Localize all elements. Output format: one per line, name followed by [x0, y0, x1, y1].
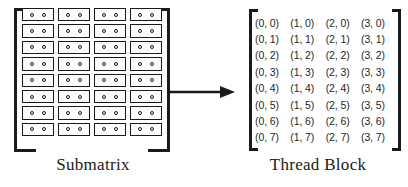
- submatrix-cell: [94, 106, 126, 119]
- thread-coordinate: (2, 2): [326, 49, 360, 61]
- submatrix-cell: [94, 123, 126, 136]
- submatrix-cell: [22, 24, 54, 37]
- thread-block-row: (0, 6)(1, 6)(2, 6)(3, 6): [255, 114, 395, 129]
- thread-coordinate: (2, 1): [326, 33, 360, 45]
- thread-coordinate: (1, 5): [290, 99, 324, 111]
- thread-coordinate: (3, 3): [361, 66, 395, 78]
- cell-dot-icon: [66, 111, 70, 115]
- cell-dot-icon: [42, 13, 46, 17]
- cell-dot-icon: [66, 13, 70, 17]
- submatrix-cell: [94, 57, 126, 70]
- cell-dot-icon: [42, 45, 46, 49]
- cell-dot-icon: [138, 95, 142, 99]
- submatrix-caption: Submatrix: [0, 155, 186, 175]
- arrow-right-icon: [168, 84, 236, 100]
- thread-block-row: (0, 1)(1, 1)(2, 1)(3, 1): [255, 31, 395, 46]
- submatrix-cell: [22, 74, 54, 87]
- thread-block-caption: Thread Block: [228, 155, 408, 175]
- submatrix-cell: [58, 90, 90, 103]
- thread-coordinate: (3, 5): [361, 99, 395, 111]
- cell-dot-icon: [30, 62, 34, 66]
- cell-dot-icon: [66, 29, 70, 33]
- thread-coordinate: (1, 1): [290, 33, 324, 45]
- cell-dot-icon: [42, 29, 46, 33]
- cell-dot-icon: [78, 111, 82, 115]
- thread-coordinate: (0, 4): [255, 82, 289, 94]
- submatrix-cell: [22, 57, 54, 70]
- cell-dot-icon: [42, 62, 46, 66]
- cell-dot-icon: [42, 78, 46, 82]
- cell-dot-icon: [30, 78, 34, 82]
- thread-coordinate: (0, 2): [255, 49, 289, 61]
- cell-dot-icon: [78, 95, 82, 99]
- submatrix-cell: [58, 106, 90, 119]
- submatrix-cell: [22, 106, 54, 119]
- cell-dot-icon: [78, 127, 82, 131]
- cell-dot-icon: [114, 95, 118, 99]
- submatrix-bracket-right-spine: [167, 8, 170, 152]
- thread-coordinate: (1, 3): [290, 66, 324, 78]
- thread-block-row: (0, 2)(1, 2)(2, 2)(3, 2): [255, 48, 395, 63]
- thread-coordinate: (1, 4): [290, 82, 324, 94]
- thread-coordinate: (1, 6): [290, 115, 324, 127]
- cell-dot-icon: [66, 78, 70, 82]
- thread-coordinate: (1, 2): [290, 49, 324, 61]
- cell-dot-icon: [138, 13, 142, 17]
- thread-coordinate: (3, 7): [361, 131, 395, 143]
- submatrix-cell: [22, 8, 54, 21]
- thread-coordinate: (3, 1): [361, 33, 395, 45]
- thread-coordinate: (3, 2): [361, 49, 395, 61]
- thread-coordinate: (0, 6): [255, 115, 289, 127]
- thread-coordinate: (2, 3): [326, 66, 360, 78]
- submatrix-cell: [22, 90, 54, 103]
- thread-block-row: (0, 0)(1, 0)(2, 0)(3, 0): [255, 15, 395, 30]
- thread-coordinate: (2, 4): [326, 82, 360, 94]
- cell-dot-icon: [66, 62, 70, 66]
- cell-dot-icon: [42, 95, 46, 99]
- cell-dot-icon: [138, 78, 142, 82]
- cell-dot-icon: [138, 62, 142, 66]
- thread-coordinate: (0, 3): [255, 66, 289, 78]
- cell-dot-icon: [138, 45, 142, 49]
- cell-dot-icon: [138, 111, 142, 115]
- submatrix-cell: [94, 41, 126, 54]
- submatrix-cell: [130, 106, 162, 119]
- diagram-canvas: Submatrix (0, 0)(1, 0)(2, 0)(3, 0)(0, 1)…: [0, 0, 408, 187]
- submatrix-cell: [58, 74, 90, 87]
- cell-dot-icon: [102, 127, 106, 131]
- submatrix-cell: [130, 123, 162, 136]
- submatrix-cell: [130, 74, 162, 87]
- submatrix-bracket-left-spine: [14, 8, 17, 152]
- cell-dot-icon: [150, 13, 154, 17]
- cell-dot-icon: [78, 13, 82, 17]
- submatrix-cell: [130, 24, 162, 37]
- cell-dot-icon: [102, 45, 106, 49]
- cell-dot-icon: [150, 62, 154, 66]
- thread-block-bracket: (0, 0)(1, 0)(2, 0)(3, 0)(0, 1)(1, 1)(2, …: [249, 9, 401, 151]
- cell-dot-icon: [150, 95, 154, 99]
- cell-dot-icon: [114, 111, 118, 115]
- cell-dot-icon: [66, 127, 70, 131]
- submatrix-cell: [58, 24, 90, 37]
- submatrix-cell: [58, 57, 90, 70]
- cell-dot-icon: [78, 78, 82, 82]
- submatrix-cell: [58, 123, 90, 136]
- thread-block-row: (0, 7)(1, 7)(2, 7)(3, 7): [255, 130, 395, 145]
- thread-coordinate: (2, 6): [326, 115, 360, 127]
- cell-dot-icon: [114, 13, 118, 17]
- cell-dot-icon: [78, 45, 82, 49]
- cell-dot-icon: [102, 78, 106, 82]
- cell-dot-icon: [114, 127, 118, 131]
- cell-dot-icon: [138, 127, 142, 131]
- cell-dot-icon: [150, 78, 154, 82]
- thread-coordinate: (2, 0): [326, 17, 360, 29]
- submatrix-grid: [22, 8, 162, 136]
- cell-dot-icon: [114, 78, 118, 82]
- cell-dot-icon: [102, 95, 106, 99]
- submatrix-bracket-corner-bottom-left: [14, 138, 36, 152]
- cell-dot-icon: [114, 45, 118, 49]
- cell-dot-icon: [30, 111, 34, 115]
- submatrix-cell: [22, 41, 54, 54]
- thread-coordinate: (1, 7): [290, 131, 324, 143]
- thread-coordinate: (2, 7): [326, 131, 360, 143]
